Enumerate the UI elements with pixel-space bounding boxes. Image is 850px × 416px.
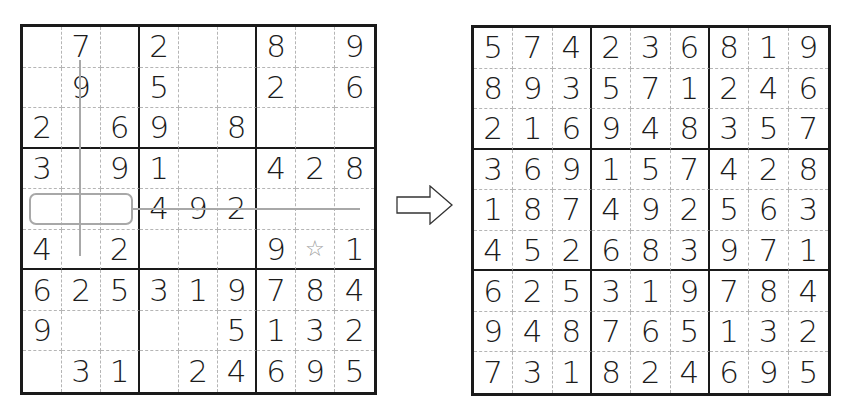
- solution-cell-r1c5: 3: [631, 28, 670, 69]
- puzzle-cell-r3c2[interactable]: [62, 108, 101, 149]
- puzzle-cell-r8c5[interactable]: [179, 311, 218, 352]
- puzzle-cell-r3c3: 6: [101, 108, 140, 149]
- cell-digit: 9: [110, 153, 130, 184]
- solution-cell-r5c8: 6: [749, 190, 788, 231]
- solution-cell-r8c6: 5: [671, 312, 710, 353]
- solution-cell-r2c1: 8: [474, 69, 513, 110]
- puzzle-cell-r5c5: 9: [179, 189, 218, 230]
- solution-cell-r4c6: 7: [671, 150, 710, 191]
- puzzle-cell-r1c1[interactable]: [23, 27, 62, 68]
- cell-digit: 7: [71, 31, 91, 62]
- puzzle-cell-r8c2[interactable]: [62, 311, 101, 352]
- cell-digit: 1: [679, 73, 699, 104]
- puzzle-cell-r1c5[interactable]: [179, 27, 218, 68]
- cell-digit: 3: [483, 154, 503, 185]
- cell-digit: 6: [32, 275, 52, 306]
- puzzle-cell-r3c9[interactable]: [335, 108, 374, 149]
- puzzle-cell-r2c9: 6: [335, 68, 374, 109]
- cell-digit: 9: [32, 315, 52, 346]
- puzzle-cell-r5c8[interactable]: [296, 189, 335, 230]
- solution-cell-r4c2: 6: [513, 150, 552, 191]
- solution-cell-r4c5: 5: [631, 150, 670, 191]
- puzzle-cell-r4c5[interactable]: [179, 149, 218, 190]
- puzzle-cell-r9c7: 6: [257, 351, 296, 392]
- cell-digit: 8: [759, 276, 779, 307]
- puzzle-cell-r4c9: 8: [335, 149, 374, 190]
- solution-cell-r5c4: 4: [592, 190, 631, 231]
- puzzle-cell-r6c4[interactable]: [140, 230, 179, 271]
- puzzle-cell-r5c1[interactable]: [23, 189, 62, 230]
- puzzle-cell-r9c1[interactable]: [23, 351, 62, 392]
- cell-digit: 4: [641, 113, 661, 144]
- puzzle-cell-r1c8[interactable]: [296, 27, 335, 68]
- puzzle-cell-r3c7[interactable]: [257, 108, 296, 149]
- cell-digit: 4: [345, 275, 365, 306]
- puzzle-cell-r3c1: 2: [23, 108, 62, 149]
- puzzle-cell-r7c5: 1: [179, 270, 218, 311]
- cell-digit: 9: [266, 234, 286, 265]
- cell-digit: 2: [601, 32, 621, 63]
- puzzle-cell-r1c3[interactable]: [101, 27, 140, 68]
- puzzle-cell-r4c8: 2: [296, 149, 335, 190]
- puzzle-cell-r5c3[interactable]: [101, 189, 140, 230]
- solution-cell-r4c7: 4: [710, 150, 749, 191]
- puzzle-cell-r8c4[interactable]: [140, 311, 179, 352]
- puzzle-cell-r3c5[interactable]: [179, 108, 218, 149]
- cell-digit: 3: [641, 32, 661, 63]
- puzzle-cell-r5c7[interactable]: [257, 189, 296, 230]
- solution-cell-r7c3: 5: [553, 271, 592, 312]
- cell-digit: 9: [523, 73, 543, 104]
- puzzle-cell-r2c6[interactable]: [218, 68, 257, 109]
- solution-cell-r3c4: 9: [592, 109, 631, 150]
- puzzle-cell-r8c3[interactable]: [101, 311, 140, 352]
- solution-cell-r5c7: 5: [710, 190, 749, 231]
- puzzle-cell-r7c9: 4: [335, 270, 374, 311]
- cell-digit: 7: [679, 154, 699, 185]
- cell-digit: 7: [719, 276, 739, 307]
- puzzle-cell-r7c6: 9: [218, 270, 257, 311]
- puzzle-cell-r7c8: 8: [296, 270, 335, 311]
- cell-digit: 3: [32, 153, 52, 184]
- puzzle-cell-r2c3[interactable]: [101, 68, 140, 109]
- puzzle-cell-r2c1[interactable]: [23, 68, 62, 109]
- solution-cell-r4c9: 8: [789, 150, 828, 191]
- puzzle-cell-r5c2[interactable]: [62, 189, 101, 230]
- cell-digit: 8: [561, 316, 581, 347]
- puzzle-cell-r6c5[interactable]: [179, 230, 218, 271]
- cell-digit: 3: [149, 275, 169, 306]
- solution-cell-r2c4: 5: [592, 69, 631, 110]
- puzzle-cell-r1c6[interactable]: [218, 27, 257, 68]
- cell-digit: 6: [798, 73, 818, 104]
- puzzle-cell-r6c7: 9: [257, 230, 296, 271]
- solution-cell-r1c3: 4: [553, 28, 592, 69]
- puzzle-cell-r1c2: 7: [62, 27, 101, 68]
- cell-digit: 1: [483, 194, 503, 225]
- puzzle-cell-r6c8: ☆: [296, 230, 335, 271]
- solution-cell-r5c5: 9: [631, 190, 670, 231]
- puzzle-cell-r5c9[interactable]: [335, 189, 374, 230]
- puzzle-cell-r4c2[interactable]: [62, 149, 101, 190]
- cell-digit: 2: [759, 154, 779, 185]
- cell-digit: 2: [719, 73, 739, 104]
- puzzle-cell-r2c8[interactable]: [296, 68, 335, 109]
- puzzle-cell-r3c8[interactable]: [296, 108, 335, 149]
- cell-digit: 5: [561, 276, 581, 307]
- solution-cell-r3c5: 4: [631, 109, 670, 150]
- cell-digit: 1: [719, 316, 739, 347]
- puzzle-cell-r6c2[interactable]: [62, 230, 101, 271]
- cell-digit: 6: [561, 113, 581, 144]
- puzzle-cell-r6c6[interactable]: [218, 230, 257, 271]
- cell-digit: 7: [641, 73, 661, 104]
- cell-digit: 6: [641, 316, 661, 347]
- cell-digit: 4: [149, 193, 169, 224]
- puzzle-cell-r4c6[interactable]: [218, 149, 257, 190]
- solution-cell-r8c1: 9: [474, 312, 513, 353]
- cell-digit: 7: [798, 113, 818, 144]
- solution-cell-r9c1: 7: [474, 352, 513, 393]
- cell-digit: 6: [110, 112, 130, 143]
- puzzle-cell-r9c4[interactable]: [140, 351, 179, 392]
- solution-cell-r7c1: 6: [474, 271, 513, 312]
- puzzle-cell-r2c5[interactable]: [179, 68, 218, 109]
- solution-cell-r8c8: 3: [749, 312, 788, 353]
- solution-cell-r2c3: 3: [553, 69, 592, 110]
